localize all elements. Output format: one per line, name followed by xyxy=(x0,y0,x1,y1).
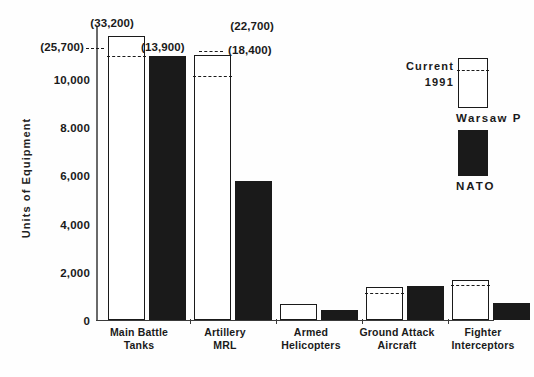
bar-group-artillery-mrl xyxy=(190,27,276,320)
legend-current-label-line2: 1991 xyxy=(386,74,454,90)
y-axis-tick-labels: 0 2,000 4,000 6,000 8.000 10,000 xyxy=(28,0,90,377)
x-label-fighter-interceptors: Fighter Interceptors xyxy=(437,326,529,352)
dashed-1991-warsaw-main-battle-tanks xyxy=(107,56,145,57)
legend-current-label-line1: Current xyxy=(386,58,454,74)
annotation-warsaw-main-battle-tanks-1991: (25,700) xyxy=(16,41,84,53)
y-tick-6000: 6,000 xyxy=(28,170,90,182)
bar-nato-armed-helicopters xyxy=(321,310,358,320)
annotation-warsaw-artillery-mrl-total: (22,700) xyxy=(206,20,274,32)
x-label-main-battle-tanks-line2: Tanks xyxy=(93,339,185,352)
y-tick-0: 0 xyxy=(28,315,90,327)
x-label-main-battle-tanks-line1: Main Battle xyxy=(93,326,185,339)
x-label-armed-helicopters: Armed Helicopters xyxy=(265,326,357,352)
chart-legend: Current 1991 Warsaw P NATO xyxy=(396,54,534,194)
bar-group-main-battle-tanks xyxy=(104,27,190,320)
legend-label-warsaw-pact: Warsaw P xyxy=(456,112,522,124)
bar-group-armed-helicopters xyxy=(276,27,362,320)
dashed-1991-warsaw-ground-attack-aircraft xyxy=(365,293,403,294)
legend-current-1991-label: Current 1991 xyxy=(386,58,454,90)
legend-label-nato: NATO xyxy=(456,180,496,192)
legend-swatch-warsaw-pact xyxy=(458,58,488,108)
bar-warsaw-ground-attack-aircraft xyxy=(366,287,403,320)
bar-warsaw-main-battle-tanks xyxy=(108,36,145,320)
x-label-artillery-mrl: Artillery MRL xyxy=(179,326,271,352)
legend-swatch-nato xyxy=(458,130,488,176)
bar-warsaw-fighter-interceptors xyxy=(452,280,489,320)
bar-warsaw-artillery-mrl xyxy=(194,55,231,320)
leader-line-warsaw-artillery-mrl-1991 xyxy=(199,51,223,52)
x-label-artillery-mrl-line2: MRL xyxy=(179,339,271,352)
annotation-warsaw-artillery-mrl-1991: (18,400) xyxy=(228,44,272,56)
bar-nato-fighter-interceptors xyxy=(493,303,530,320)
x-label-ground-attack-aircraft-line2: Aircraft xyxy=(351,339,443,352)
x-label-artillery-mrl-line1: Artillery xyxy=(179,326,271,339)
x-label-fighter-interceptors-line1: Fighter xyxy=(437,326,529,339)
x-label-armed-helicopters-line2: Helicopters xyxy=(265,339,357,352)
bar-nato-main-battle-tanks xyxy=(149,56,186,320)
y-tick-10000: 10,000 xyxy=(28,74,90,86)
x-label-ground-attack-aircraft: Ground Attack Aircraft xyxy=(351,326,443,352)
y-tick-8000: 8.000 xyxy=(28,122,90,134)
y-axis-line xyxy=(96,26,98,321)
dashed-1991-warsaw-artillery-mrl xyxy=(193,76,231,77)
bar-nato-artillery-mrl xyxy=(235,181,272,320)
bar-warsaw-armed-helicopters xyxy=(280,304,317,320)
annotation-nato-main-battle-tanks: (13,900) xyxy=(141,41,185,53)
legend-dashed-1991-marker xyxy=(457,70,488,71)
x-label-ground-attack-aircraft-line1: Ground Attack xyxy=(351,326,443,339)
x-axis-line xyxy=(96,320,494,322)
x-label-main-battle-tanks: Main Battle Tanks xyxy=(93,326,185,352)
x-label-fighter-interceptors-line2: Interceptors xyxy=(437,339,529,352)
leader-line-warsaw-main-battle-tanks-1991 xyxy=(86,48,104,49)
dashed-1991-warsaw-fighter-interceptors xyxy=(451,285,489,286)
x-label-armed-helicopters-line1: Armed xyxy=(265,326,357,339)
bar-nato-ground-attack-aircraft xyxy=(407,286,444,320)
annotation-warsaw-main-battle-tanks-total: (33,200) xyxy=(66,17,134,29)
y-tick-4000: 4,000 xyxy=(28,219,90,231)
y-tick-2000: 2,000 xyxy=(28,267,90,279)
